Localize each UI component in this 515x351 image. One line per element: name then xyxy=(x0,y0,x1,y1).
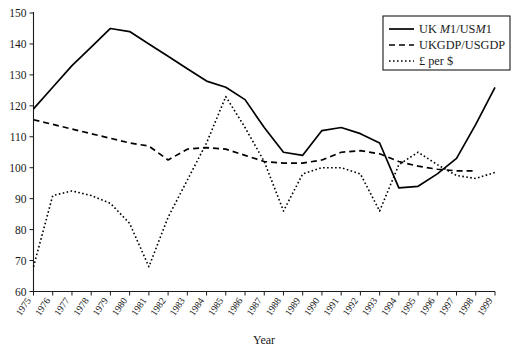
y-axis-tick-label: 150 xyxy=(9,7,27,19)
y-axis-tick-label: 100 xyxy=(9,162,27,174)
chart-legend: UK M1/USM1UKGDP/USGDP£ per $ xyxy=(383,16,510,70)
y-axis-tick-label: 70 xyxy=(15,255,27,267)
x-axis-tick-label: 1981 xyxy=(129,295,149,317)
x-axis-tick-label: 1975 xyxy=(13,295,33,317)
x-axis-tick-label: 1992 xyxy=(340,295,360,317)
x-axis-tick-label: 1979 xyxy=(90,295,110,317)
x-axis-tick-label: 1978 xyxy=(71,295,91,317)
x-axis-tick-label: 1991 xyxy=(321,295,341,317)
x-axis-tick-label: 1987 xyxy=(244,295,264,317)
x-axis-title: Year xyxy=(253,333,275,347)
legend-label: £ per $ xyxy=(419,54,453,68)
legend-label: UK M1/USM1 xyxy=(419,22,492,36)
x-axis-ticks: 1975197619771978197919801981198219831984… xyxy=(13,292,495,318)
x-axis-tick-label: 1996 xyxy=(417,295,437,317)
y-axis-tick-label: 130 xyxy=(9,69,27,81)
x-axis-tick-label: 1986 xyxy=(225,295,245,317)
x-axis-tick-label: 1989 xyxy=(282,295,302,317)
y-axis-ticks: 60708090100110120130140150 xyxy=(9,7,33,298)
y-axis-tick-label: 80 xyxy=(15,224,27,236)
y-axis-tick-label: 60 xyxy=(15,286,27,298)
x-axis-tick-label: 1980 xyxy=(109,295,129,317)
x-axis-tick-label: 1994 xyxy=(379,295,399,317)
x-axis-tick-label: 1990 xyxy=(302,295,322,317)
x-axis-tick-label: 1985 xyxy=(205,295,225,317)
y-axis-tick-label: 90 xyxy=(15,193,27,205)
x-axis-tick-label: 1988 xyxy=(263,295,283,317)
y-axis-tick-label: 120 xyxy=(9,100,27,112)
line-chart: 60708090100110120130140150 1975197619771… xyxy=(0,0,515,351)
x-axis-tick-label: 1997 xyxy=(436,295,456,317)
y-axis-tick-label: 110 xyxy=(10,131,27,143)
x-axis-tick-label: 1983 xyxy=(167,295,187,317)
x-axis-tick-label: 1998 xyxy=(455,295,475,317)
x-axis-tick-label: 1982 xyxy=(148,295,168,317)
legend-label: UKGDP/USGDP xyxy=(419,38,505,52)
chart-container: 60708090100110120130140150 1975197619771… xyxy=(0,0,515,351)
x-axis-tick-label: 1976 xyxy=(32,295,52,317)
x-axis-tick-label: 1984 xyxy=(186,295,206,317)
x-axis-tick-label: 1977 xyxy=(52,295,72,317)
x-axis-tick-label: 1995 xyxy=(398,295,418,317)
x-axis-tick-label: 1993 xyxy=(359,295,379,317)
y-axis-tick-label: 140 xyxy=(9,38,27,50)
x-axis-tick-label: 1999 xyxy=(475,295,495,317)
